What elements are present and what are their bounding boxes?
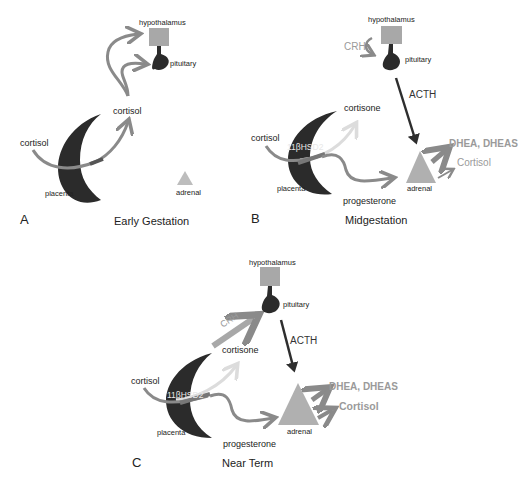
placenta-shape: [288, 111, 337, 195]
pituitary-shape: [262, 286, 280, 313]
dhea-label: DHEA, DHEAS: [329, 382, 398, 392]
cortisol-maternal-label: cortisol: [131, 377, 160, 386]
progesterone-arrow: [322, 155, 392, 181]
dhea-arrow: [432, 150, 446, 162]
adrenal-triangle: [177, 171, 193, 185]
pituitary-shape: [383, 44, 400, 70]
adrenal-triangle: [278, 383, 319, 425]
placenta-label: placenta: [45, 190, 73, 198]
cortisol-fetal-label: cortisol: [113, 107, 142, 116]
pituitary-label: pituitary: [283, 301, 309, 309]
placenta-label: placenta: [277, 185, 305, 193]
hypothalamus-label: hypothalamus: [139, 19, 186, 27]
diagram-canvas: [0, 0, 525, 481]
hypothalamus-box: [381, 26, 402, 44]
crh-curved-arrow: [366, 38, 372, 54]
enzyme-label: 11βHSD2: [167, 391, 203, 400]
hypothalamus-box: [149, 28, 169, 46]
acth-label: ACTH: [290, 336, 317, 346]
hypothalamus-box: [260, 267, 280, 286]
dhea-label: DHEA, DHEAS: [449, 139, 518, 149]
cortisol-maternal-label: cortisol: [251, 134, 280, 143]
cortisol-to-hypothalamus-arrow: [107, 34, 138, 96]
placenta-band: [90, 159, 103, 164]
pituitary-shape: [152, 46, 169, 70]
pituitary-label: pituitary: [405, 56, 431, 64]
cortisone-label: cortisone: [344, 104, 381, 113]
cortisol-out-arrow: [318, 410, 332, 418]
hypothalamus-label: hypothalamus: [249, 259, 296, 267]
dhea-arrow: [312, 390, 326, 400]
adrenal-triangle: [406, 151, 436, 183]
adrenal-label: adrenal: [407, 185, 432, 193]
acth-label: ACTH: [409, 90, 436, 100]
cortisol-out-arrow: [438, 170, 452, 178]
cortisone-label: cortisone: [222, 346, 259, 355]
progesterone-label: progesterone: [223, 440, 276, 449]
adrenal-label: adrenal: [176, 189, 201, 197]
pituitary-label: pituitary: [170, 60, 196, 68]
placenta-label: placenta: [157, 429, 185, 437]
adrenal-label: adrenal: [287, 428, 312, 436]
enzyme-label: 11βHSD2: [287, 143, 323, 152]
panel-c-title: Near Term: [222, 458, 273, 469]
panel-b-title: Midgestation: [345, 215, 407, 226]
progesterone-arrow: [210, 394, 273, 421]
cortisol-output-label: Cortisol: [457, 158, 491, 168]
acth-arrow: [396, 78, 416, 142]
panel-a-letter: A: [20, 213, 29, 226]
panel-c-letter: C: [132, 456, 141, 469]
panel-b-letter: B: [251, 212, 260, 225]
cortisol-output-label: Cortisol: [339, 401, 379, 412]
cortisol-maternal-label: cortisol: [20, 139, 49, 148]
panel-a-title: Early Gestation: [114, 216, 189, 227]
progesterone-label: progesterone: [343, 197, 396, 206]
hypothalamus-label: hypothalamus: [368, 16, 415, 24]
crh-label: CRH: [344, 42, 366, 52]
